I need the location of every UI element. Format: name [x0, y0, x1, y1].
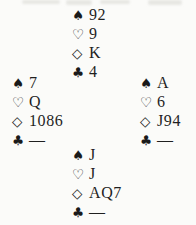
heart-icon: ♡ [12, 94, 29, 110]
west-diamonds-value: 1086 [29, 112, 63, 130]
club-icon: ♣ [12, 132, 29, 148]
heart-icon: ♡ [72, 166, 89, 182]
bridge-deal-diagram: ♠ 92 ♡ 9 ◇ K ♣ 4 ♠ 7 ♡ Q ◇ 1086 ♣ [0, 0, 196, 225]
heart-icon: ♡ [140, 94, 157, 110]
north-spades-value: 92 [89, 6, 106, 24]
north-spades-line: ♠ 92 [72, 6, 106, 25]
south-hand: ♠ J ♡ J ◇ AQ7 ♣ — [72, 146, 122, 222]
south-clubs-line: ♣ — [72, 203, 122, 222]
spade-icon: ♠ [12, 75, 29, 91]
west-hearts-line: ♡ Q [12, 93, 63, 112]
east-hearts-line: ♡ 6 [140, 93, 181, 112]
club-icon: ♣ [72, 204, 89, 220]
club-icon: ♣ [140, 132, 157, 148]
west-spades-line: ♠ 7 [12, 74, 63, 93]
south-spades-value: J [89, 146, 96, 164]
south-hearts-value: J [89, 165, 96, 183]
north-clubs-line: ♣ 4 [72, 63, 106, 82]
diamond-icon: ◇ [12, 113, 29, 129]
club-icon: ♣ [72, 64, 89, 80]
south-diamonds-line: ◇ AQ7 [72, 184, 122, 203]
east-diamonds-line: ◇ J94 [140, 112, 181, 131]
diamond-icon: ◇ [72, 45, 89, 61]
south-clubs-value: — [89, 203, 106, 221]
east-spades-value: A [157, 74, 169, 92]
south-spades-line: ♠ J [72, 146, 122, 165]
spade-icon: ♠ [72, 7, 89, 23]
north-hand: ♠ 92 ♡ 9 ◇ K ♣ 4 [72, 6, 106, 82]
west-clubs-value: — [29, 131, 46, 149]
diamond-icon: ◇ [140, 113, 157, 129]
spade-icon: ♠ [72, 147, 89, 163]
east-diamonds-value: J94 [157, 112, 181, 130]
north-diamonds-line: ◇ K [72, 44, 106, 63]
north-hearts-line: ♡ 9 [72, 25, 106, 44]
east-clubs-value: — [157, 131, 174, 149]
south-hearts-line: ♡ J [72, 165, 122, 184]
heart-icon: ♡ [72, 26, 89, 42]
west-hand: ♠ 7 ♡ Q ◇ 1086 ♣ — [12, 74, 63, 150]
diamond-icon: ◇ [72, 185, 89, 201]
east-clubs-line: ♣ — [140, 131, 181, 150]
east-hearts-value: 6 [157, 93, 166, 111]
spade-icon: ♠ [140, 75, 157, 91]
east-spades-line: ♠ A [140, 74, 181, 93]
west-diamonds-line: ◇ 1086 [12, 112, 63, 131]
south-diamonds-value: AQ7 [89, 184, 122, 202]
north-hearts-value: 9 [89, 25, 98, 43]
east-hand: ♠ A ♡ 6 ◇ J94 ♣ — [140, 74, 181, 150]
west-hearts-value: Q [29, 93, 41, 111]
west-clubs-line: ♣ — [12, 131, 63, 150]
north-diamonds-value: K [89, 44, 101, 62]
north-clubs-value: 4 [89, 63, 98, 81]
west-spades-value: 7 [29, 74, 38, 92]
